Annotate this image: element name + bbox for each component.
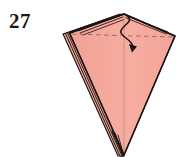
origami-diagram <box>0 0 184 157</box>
origami-step-figure: 27 <box>0 0 184 157</box>
